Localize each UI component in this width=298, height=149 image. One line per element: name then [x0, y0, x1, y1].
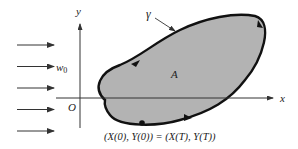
region-a-label: A — [170, 68, 178, 80]
x-axis-label: x — [279, 92, 285, 104]
region-a — [99, 15, 265, 125]
start-point — [139, 120, 145, 126]
diagram-canvas: y x O γ A w0 (X(0), Y(0)) = (X(T), Y(T)) — [0, 0, 298, 149]
origin-label: O — [68, 101, 76, 113]
gamma-label: γ — [146, 7, 151, 21]
y-axis-label: y — [75, 5, 81, 17]
gamma-pointer-arrow — [155, 18, 175, 31]
flow-label-subscript: 0 — [63, 66, 67, 75]
flow-label: w0 — [56, 61, 67, 75]
flow-arrows — [17, 45, 54, 131]
point-equation-label: (X(0), Y(0)) = (X(T), Y(T)) — [104, 131, 216, 143]
